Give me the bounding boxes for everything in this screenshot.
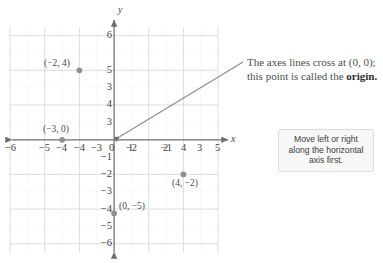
y-tick-label-n3: −3 (98, 185, 112, 196)
y-tick-label: −2 (98, 168, 112, 179)
x-axis-label: x (231, 133, 235, 144)
point-label-b: (−3, 0) (43, 124, 69, 134)
y-tick-label: 3 (98, 116, 112, 127)
data-point (181, 172, 187, 178)
origin-note-line1: The axes lines cross at (0, 0); (247, 55, 376, 69)
x-tick-label: −5 (38, 142, 51, 153)
x-tick-label-neg4: −4 (55, 142, 68, 153)
y-tick-label: 4 (98, 98, 112, 109)
data-point (111, 211, 117, 217)
point-label-a: (−2, 4) (44, 58, 70, 68)
x-tick-label: 2 (159, 142, 172, 153)
origin-leader-line (120, 62, 243, 137)
x-tick-label: 5 (211, 142, 224, 153)
x-tick-label: 1 (124, 142, 137, 153)
callout-box: Move left or right along the horizontal … (278, 129, 374, 172)
y-tick-label-n5: −5 (98, 220, 112, 231)
origin-note-line2: this point is called the origin. (247, 69, 377, 83)
y-tick-label: 6 (98, 29, 112, 40)
y-tick-label: −1 (98, 151, 112, 162)
y-axis-label: y (118, 4, 122, 15)
callout-line-3: axis first. (282, 155, 370, 166)
callout-line-1: Move left or right (282, 134, 370, 145)
data-point (77, 67, 83, 73)
point-label-d: (0, −5) (119, 201, 145, 211)
coordinate-plane-figure: y x −6 −5 −4 −3 −2 −1 0 1 2 3 4 5 6 −4 6… (0, 0, 383, 263)
y-tick-label: 5 (98, 64, 112, 75)
x-tick-label: 4 (177, 142, 190, 153)
x-tick-label: −6 (4, 142, 17, 153)
y-tick-label: −4 (98, 203, 112, 214)
x-tick-label: 3 (193, 142, 206, 153)
callout-line-2: along the horizontal (282, 145, 370, 156)
point-label-c: (4, −2) (172, 178, 198, 188)
y-tick-label: −6 (98, 237, 112, 248)
origin-note-bold-word: origin. (346, 70, 377, 82)
origin-note-line2-prefix: this point is called the (247, 70, 346, 82)
x-tick-label: −4 (73, 142, 86, 153)
y-tick-label-3: 3 (98, 81, 112, 92)
